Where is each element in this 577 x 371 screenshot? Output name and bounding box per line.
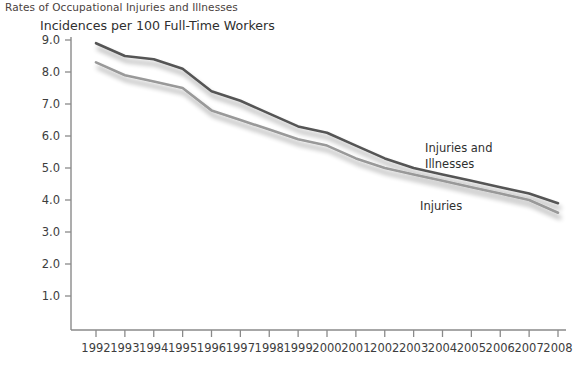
x-axis-tick-label: 1994: [139, 341, 168, 355]
y-axis-tick-label: 5.0: [42, 161, 60, 175]
x-axis-tick-label: 2008: [543, 341, 572, 355]
y-axis-tick-label: 1.0: [42, 289, 60, 303]
y-axis-tick-labels: 9.08.07.06.05.04.03.02.01.0: [42, 33, 60, 303]
x-axis-tick-label: 2001: [341, 341, 370, 355]
x-axis-tick-label: 2005: [457, 341, 486, 355]
x-axis-tick-label: 1992: [81, 341, 110, 355]
x-axis-tick-label: 2007: [514, 341, 543, 355]
y-axis-tick-label: 6.0: [42, 129, 60, 143]
x-axis-tick-label: 2002: [370, 341, 399, 355]
series-label: Injuries: [420, 199, 462, 213]
x-axis-ticks: [96, 330, 558, 337]
x-axis: 1992199319941995199619971998199920002001…: [71, 330, 573, 355]
y-axis-tick-label: 9.0: [42, 33, 60, 47]
y-axis-ticks: [65, 40, 71, 296]
series-line: [96, 43, 558, 203]
series-label: Injuries and: [425, 141, 492, 155]
x-axis-tick-label: 1993: [110, 341, 139, 355]
y-axis: 9.08.07.06.05.04.03.02.01.0: [42, 33, 71, 330]
y-axis-tick-label: 8.0: [42, 65, 60, 79]
y-axis-tick-label: 4.0: [42, 193, 60, 207]
data-series-group: [96, 43, 558, 213]
x-axis-tick-labels: 1992199319941995199619971998199920002001…: [81, 341, 572, 355]
x-axis-tick-label: 2000: [312, 341, 341, 355]
line-chart-plot: 9.08.07.06.05.04.03.02.01.0 199219931994…: [0, 0, 577, 371]
x-axis-tick-label: 1997: [226, 341, 255, 355]
x-axis-tick-label: 1999: [283, 341, 312, 355]
y-axis-tick-label: 7.0: [42, 97, 60, 111]
y-axis-tick-label: 3.0: [42, 225, 60, 239]
x-axis-tick-label: 1996: [197, 341, 226, 355]
series-line: [96, 62, 558, 212]
series-label: Illnesses: [425, 157, 474, 171]
x-axis-tick-label: 1995: [168, 341, 197, 355]
x-axis-tick-label: 2003: [399, 341, 428, 355]
y-axis-tick-label: 2.0: [42, 257, 60, 271]
x-axis-tick-label: 2004: [428, 341, 457, 355]
x-axis-tick-label: 2006: [486, 341, 515, 355]
x-axis-tick-label: 1998: [255, 341, 284, 355]
chart-figure: Rates of Occupational Injuries and Illne…: [0, 0, 577, 371]
